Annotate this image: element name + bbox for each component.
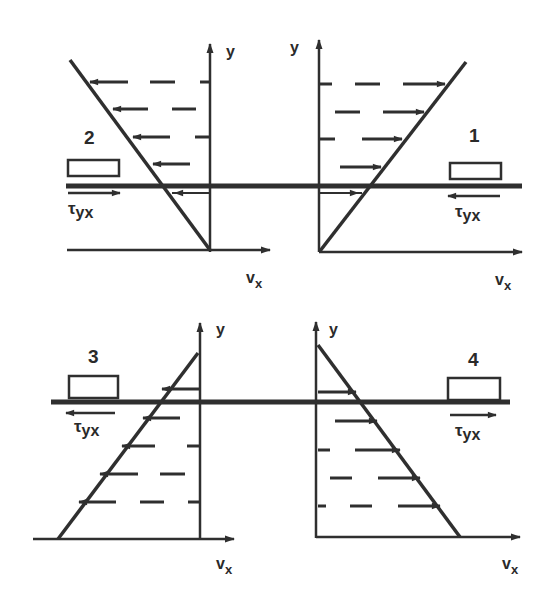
panel-2-velocity-profile xyxy=(70,60,210,250)
panel-3-number-label: 3 xyxy=(88,347,99,366)
panel-1-y-axis-label: y xyxy=(290,40,299,56)
panel-1-number-label: 1 xyxy=(469,126,480,145)
panel-4-number-label: 4 xyxy=(468,350,479,369)
panel-4-x-axis-label: vx xyxy=(502,556,518,572)
panel-1-velocity-profile xyxy=(320,62,466,251)
panel-2-plate-block xyxy=(68,160,119,176)
panel-4-velocity-profile xyxy=(318,345,460,537)
panel-2-x-axis-label: vx xyxy=(246,270,262,286)
panel-3 xyxy=(33,323,234,540)
panel-2 xyxy=(67,44,270,252)
panel-2-y-axis-label: y xyxy=(226,44,235,60)
panel-2-number-label: 2 xyxy=(84,128,95,147)
panel-1-shear-stress-label: τyx xyxy=(455,203,480,220)
panel-3-x-axis-label: vx xyxy=(216,556,232,572)
panel-4-plate-block xyxy=(448,378,500,400)
panel-1-plate-block xyxy=(450,163,501,179)
shear-stress-velocity-profile-diagram: 2 y τyx vx 1 y τyx vx 3 y τyx vx 4 y τyx… xyxy=(0,0,550,600)
panel-1 xyxy=(319,40,522,252)
panel-4-shear-stress-label: τyx xyxy=(455,422,480,439)
panel-1-x-axis-label: vx xyxy=(495,272,511,288)
panel-2-shear-stress-label: τyx xyxy=(68,200,93,217)
panel-4-y-axis-label: y xyxy=(329,322,338,338)
panel-3-shear-stress-label: τyx xyxy=(74,418,99,435)
panel-3-y-axis-label: y xyxy=(216,322,225,338)
panel-3-plate-block xyxy=(69,376,118,398)
diagram-graphics xyxy=(0,0,550,600)
panel-4 xyxy=(316,322,520,538)
